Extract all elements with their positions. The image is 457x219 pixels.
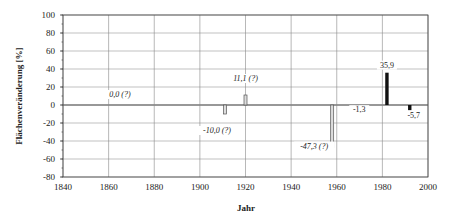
axes: 100806040200-20-40-60-801840186018801900…	[42, 10, 438, 192]
x-tick-label: 1900	[191, 182, 210, 192]
bar	[244, 95, 247, 105]
x-tick-label: 1840	[54, 182, 73, 192]
bar	[385, 73, 388, 105]
y-tick-label: 100	[42, 10, 56, 20]
x-tick-label: 1940	[282, 182, 301, 192]
data-label: -5,7	[407, 111, 420, 120]
bar	[331, 105, 334, 148]
x-tick-label: 1860	[100, 182, 119, 192]
x-tick-label: 1980	[373, 182, 392, 192]
y-tick-label: -40	[43, 136, 55, 146]
data-label: 35,9	[380, 61, 394, 70]
data-label: -10,0 (?)	[203, 126, 231, 135]
x-tick-label: 1920	[237, 182, 256, 192]
y-axis-title: Flächenveränderung [%]	[14, 47, 24, 144]
chart: 0,0 (?)-10,0 (?)11,1 (?)-47,3 (?)-1,335,…	[0, 0, 457, 219]
y-tick-label: 40	[46, 64, 56, 74]
y-tick-label: 20	[46, 82, 56, 92]
x-axis-title: Jahr	[237, 203, 255, 213]
y-tick-label: 0	[51, 100, 56, 110]
y-tick-label: -80	[43, 172, 55, 182]
data-label: -1,3	[353, 105, 366, 114]
x-tick-label: 1960	[328, 182, 347, 192]
data-label: 0,0 (?)	[109, 90, 131, 99]
data-label: -47,3 (?)	[300, 142, 328, 151]
bar	[223, 105, 226, 114]
bars	[223, 73, 411, 148]
data-labels: 0,0 (?)-10,0 (?)11,1 (?)-47,3 (?)-1,335,…	[104, 61, 424, 151]
y-tick-label: -20	[43, 118, 55, 128]
y-tick-label: 60	[46, 46, 56, 56]
x-tick-label: 2000	[419, 182, 438, 192]
x-tick-label: 1880	[145, 182, 164, 192]
data-label: 11,1 (?)	[233, 74, 258, 83]
y-tick-label: 80	[46, 28, 56, 38]
bar	[408, 105, 411, 110]
y-tick-label: -60	[43, 154, 55, 164]
